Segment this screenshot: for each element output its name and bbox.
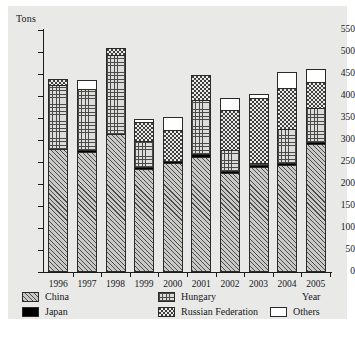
- legend-label-others: Others: [293, 306, 320, 317]
- bar-segment-hungary: [306, 108, 326, 141]
- bar-segment-japan: [134, 167, 154, 169]
- chart-legend: China Japan Hungary Russian Federation O…: [22, 291, 338, 321]
- bar-segment-others: [306, 69, 326, 82]
- bar-segment-japan: [220, 171, 240, 173]
- bar-segment-others: [77, 80, 97, 90]
- legend-swatch-hungary-icon: [158, 292, 175, 302]
- x-tick-mark: [187, 272, 188, 277]
- legend-swatch-russian-federation-icon: [158, 307, 175, 317]
- bar-segment-others: [163, 117, 183, 131]
- bar-2002: [220, 30, 240, 272]
- bar-1996: [48, 30, 68, 272]
- bar-2000: [163, 30, 183, 272]
- legend-label-russian-federation: Russian Federation: [181, 306, 258, 317]
- bar-segment-china: [277, 165, 297, 272]
- bar-segment-hungary: [134, 141, 154, 167]
- bar-segment-japan: [277, 163, 297, 165]
- bar-segment-hungary: [77, 89, 97, 150]
- bar-segment-others: [277, 72, 297, 88]
- legend-item-russian-federation: Russian Federation: [158, 306, 258, 317]
- bar-segment-china: [306, 144, 326, 272]
- bar-segment-hungary: [191, 100, 211, 154]
- bar-segment-hungary: [220, 150, 240, 171]
- bar-1998: [106, 30, 126, 272]
- bar-segment-china: [220, 173, 240, 272]
- bar-segment-russian-federation: [249, 98, 269, 163]
- legend-item-japan: Japan: [22, 306, 68, 317]
- legend-item-china: China: [22, 291, 69, 302]
- x-tick-label: 2005: [299, 279, 333, 289]
- bar-segment-japan: [249, 165, 269, 167]
- stacked-bar-chart-figure: Tons Year 050100150200250300350400450500…: [0, 0, 355, 349]
- legend-swatch-china-icon: [22, 292, 39, 302]
- x-tick-mark: [158, 272, 159, 277]
- bar-segment-russian-federation: [220, 110, 240, 150]
- y-tick-mark: [38, 272, 44, 273]
- bar-segment-russian-federation: [191, 75, 211, 100]
- bar-segment-china: [106, 134, 126, 272]
- legend-label-hungary: Hungary: [181, 291, 216, 302]
- x-tick-mark: [73, 272, 74, 277]
- bar-segment-hungary: [106, 55, 126, 134]
- bar-1999: [134, 30, 154, 272]
- x-tick-mark: [273, 272, 274, 277]
- bar-segment-china: [48, 149, 68, 272]
- legend-swatch-japan-icon: [22, 307, 39, 317]
- bar-segment-japan: [163, 161, 183, 163]
- bar-2005: [306, 30, 326, 272]
- bar-2004: [277, 30, 297, 272]
- bar-segment-russian-federation: [106, 48, 126, 55]
- bar-segment-hungary: [249, 163, 269, 165]
- bar-segment-hungary: [277, 129, 297, 163]
- bar-segment-china: [249, 167, 269, 272]
- legend-swatch-others-icon: [270, 307, 287, 317]
- bar-segment-china: [77, 152, 97, 272]
- bar-segment-japan: [306, 142, 326, 145]
- legend-item-others: Others: [270, 306, 320, 317]
- bar-1997: [77, 30, 97, 272]
- bar-segment-others: [249, 94, 269, 98]
- legend-item-hungary: Hungary: [158, 291, 216, 302]
- bar-2003: [249, 30, 269, 272]
- plot-area: [44, 30, 330, 272]
- bar-segment-japan: [77, 150, 97, 152]
- y-axis-title: Tons: [16, 13, 36, 24]
- legend-label-china: China: [45, 291, 69, 302]
- bar-segment-china: [191, 157, 211, 272]
- bar-segment-others: [220, 98, 240, 110]
- bar-segment-hungary: [48, 85, 68, 149]
- legend-label-japan: Japan: [45, 306, 68, 317]
- x-tick-mark: [130, 272, 131, 277]
- bar-segment-others: [134, 119, 154, 123]
- bar-2001: [191, 30, 211, 272]
- bar-segment-russian-federation: [163, 130, 183, 161]
- bar-segment-russian-federation: [48, 79, 68, 85]
- x-tick-mark: [216, 272, 217, 277]
- bar-segment-china: [134, 169, 154, 272]
- bar-segment-russian-federation: [277, 88, 297, 128]
- bar-segment-japan: [191, 154, 211, 157]
- bar-segment-russian-federation: [306, 82, 326, 108]
- x-tick-mark: [244, 272, 245, 277]
- x-tick-mark: [101, 272, 102, 277]
- x-tick-mark: [301, 272, 302, 277]
- bar-segment-china: [163, 163, 183, 272]
- bar-segment-russian-federation: [134, 122, 154, 141]
- x-tick-mark: [330, 272, 331, 277]
